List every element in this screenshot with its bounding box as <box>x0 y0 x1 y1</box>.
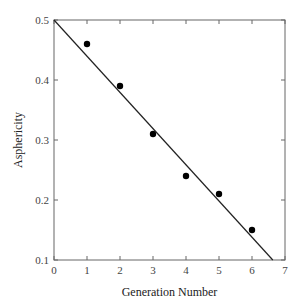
y-tick-label: 0.1 <box>35 254 49 266</box>
x-tick-label: 0 <box>51 264 57 276</box>
data-point <box>216 191 222 197</box>
x-tick-labels: 01234567 <box>51 264 288 276</box>
y-tick-label: 0.2 <box>35 194 49 206</box>
data-point <box>84 41 90 47</box>
chart: 01234567 0.10.20.30.40.5 Generation Numb… <box>0 0 303 308</box>
y-tick-label: 0.4 <box>35 74 49 86</box>
y-tick-label: 0.5 <box>35 14 49 26</box>
x-axis-label: Generation Number <box>122 285 218 299</box>
plot-series <box>54 20 273 260</box>
x-tick-label: 4 <box>183 264 189 276</box>
fit-line <box>54 20 273 260</box>
x-tick-label: 3 <box>150 264 156 276</box>
data-point <box>117 83 123 89</box>
x-tick-label: 1 <box>84 264 90 276</box>
data-point <box>183 173 189 179</box>
x-tick-label: 2 <box>117 264 123 276</box>
x-tick-label: 5 <box>216 264 222 276</box>
y-axis-label: Asphericity <box>11 112 25 168</box>
y-tick-label: 0.3 <box>35 134 49 146</box>
y-tick-labels: 0.10.20.30.40.5 <box>35 14 49 266</box>
axis-ticks <box>54 20 285 260</box>
x-tick-label: 7 <box>282 264 288 276</box>
x-tick-label: 6 <box>249 264 255 276</box>
data-point <box>249 227 255 233</box>
plot-frame <box>54 20 285 260</box>
